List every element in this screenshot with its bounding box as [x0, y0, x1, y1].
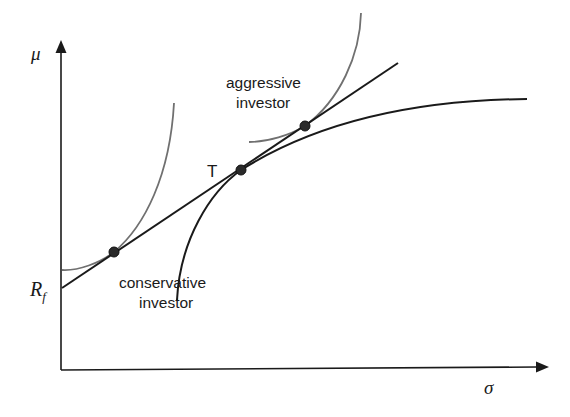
aggressive-investor-label-line1: aggressive — [226, 74, 301, 91]
conservative-investor-label-line2: investor — [139, 294, 193, 311]
conservative-investor-label-line1: conservative — [119, 274, 206, 291]
y-axis-label: μ — [30, 43, 41, 64]
conservative-indifference-curve — [62, 103, 174, 270]
risk-free-rate-label: Rf — [29, 278, 48, 304]
aggressive-optimum-point — [300, 121, 310, 131]
x-axis-arrow-icon — [536, 362, 549, 373]
x-axis — [61, 362, 549, 373]
y-axis — [56, 40, 67, 370]
efficient-frontier-curve — [177, 99, 527, 300]
tangency-label: T — [207, 162, 217, 181]
aggressive-investor-label-line2: investor — [236, 94, 290, 111]
x-axis-label: σ — [484, 377, 494, 398]
y-axis-arrow-icon — [56, 40, 67, 53]
cml-diagram: μ σ Rf T aggressive investor conservativ… — [0, 0, 570, 417]
conservative-optimum-point — [109, 247, 119, 257]
tangency-point-T — [236, 165, 246, 175]
